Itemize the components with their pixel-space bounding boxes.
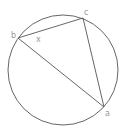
inscribed-triangle — [18, 18, 104, 107]
vertex-label-c: c — [84, 8, 88, 17]
circumscribed-circle — [8, 15, 118, 125]
vertex-label-a: a — [105, 109, 110, 118]
angle-label-x: x — [36, 35, 41, 44]
vertex-label-b: b — [11, 31, 16, 40]
circle-triangle-diagram: b c a x — [0, 0, 124, 134]
